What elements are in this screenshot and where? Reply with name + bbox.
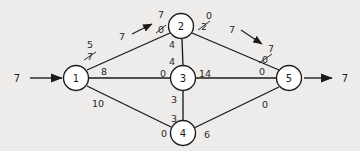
label-2-3-near-3: 4 (169, 56, 175, 67)
path-flow-1-2-label: 7 (119, 31, 125, 42)
label-1-2-near-1-struck: 7 (84, 51, 96, 62)
network-flow-diagram: 1 2 3 4 5 5 7 7 (0, 0, 360, 151)
node-3[interactable]: 3 (171, 66, 196, 91)
node-3-label: 3 (180, 73, 186, 84)
source-inflow-label: 7 (14, 73, 20, 84)
path-flow-2-5-label: 7 (229, 24, 235, 35)
edge-2-3 (182, 39, 183, 66)
label-3-right: 14 (199, 68, 211, 79)
label-2-5-near-2-struck: 2 (198, 21, 210, 32)
node-1[interactable]: 1 (64, 66, 89, 91)
label-3-left: 0 (160, 68, 166, 79)
node-1-label: 1 (73, 73, 79, 84)
label-1-2-near-2-struck: 0 (156, 24, 166, 35)
label-2-5-near-5-upper: 7 (268, 43, 274, 54)
label-1-2-near-2-upper: 7 (158, 9, 164, 20)
label-3-4-near-3: 3 (171, 94, 177, 105)
label-1-2-near-1-upper: 5 (87, 39, 93, 50)
label-4-5-near-5: 0 (262, 99, 268, 110)
sink-outflow-label: 7 (342, 73, 348, 84)
label-2-3-near-2: 4 (169, 39, 175, 50)
node-group: 1 2 3 4 5 (64, 14, 302, 146)
diagram-canvas: 1 2 3 4 5 5 7 7 (0, 0, 360, 151)
node-4-label: 4 (180, 128, 186, 139)
path-flow-1-2-arrow (132, 24, 152, 34)
label-2-5-near-2-upper: 0 (206, 10, 212, 21)
label-4-right: 6 (204, 129, 210, 140)
label-1-4-near-1: 10 (92, 98, 104, 109)
label-3-4-near-4: 3 (171, 113, 177, 124)
node-4[interactable]: 4 (171, 121, 196, 146)
path-flow-2-5-arrow (241, 30, 262, 44)
edge-1-2 (87, 33, 170, 70)
node-5-label: 5 (286, 73, 292, 84)
node-5[interactable]: 5 (277, 66, 302, 91)
label-3-5-near-5: 0 (259, 66, 265, 77)
label-1-3-near-1: 8 (101, 66, 107, 77)
node-2[interactable]: 2 (169, 14, 194, 39)
label-4-left: 0 (161, 128, 167, 139)
node-2-label: 2 (178, 21, 184, 32)
